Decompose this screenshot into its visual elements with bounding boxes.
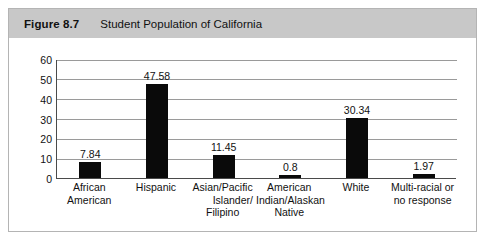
x-axis-category-line: no response	[389, 194, 456, 207]
bar[interactable]	[413, 174, 435, 178]
bar-group[interactable]: 11.45	[190, 59, 257, 178]
figure-header: Figure 8.7 Student Population of Califor…	[9, 9, 476, 38]
x-axis-category-line: American	[56, 194, 123, 207]
x-axis-category-line: Multi-racial or	[389, 181, 456, 194]
x-axis-category-label: Asian/PacificIslander/Filipino	[189, 181, 256, 219]
y-axis-tick-label: 20	[40, 133, 52, 145]
y-axis-tick-label: 40	[40, 94, 52, 106]
bar-value-label: 1.97	[413, 160, 433, 172]
x-axis-category-label: AmericanIndian/AlaskanNative	[256, 181, 323, 219]
x-axis-category-label: Multi-racial orno response	[389, 181, 456, 206]
chart-plot-area: 01020304050607.8447.5811.450.830.341.97	[56, 60, 456, 179]
x-axis-category-line: Asian/Pacific	[189, 181, 256, 194]
bar-group[interactable]: 0.8	[257, 59, 324, 178]
x-axis-category-line: African	[56, 181, 123, 194]
x-axis-category-label: Hispanic	[123, 181, 190, 194]
y-axis-tick-label: 50	[40, 74, 52, 86]
bar-value-label: 47.58	[144, 70, 170, 82]
x-axis-category-line: White	[323, 181, 390, 194]
bar-value-label: 30.34	[344, 104, 370, 116]
x-axis-category-line: American	[256, 181, 323, 194]
figure-caption: Student Population of California	[100, 18, 262, 30]
bar-value-label: 0.8	[283, 161, 298, 173]
x-axis-category-line: Indian/Alaskan	[256, 194, 323, 207]
x-axis-category-line: Native	[256, 206, 323, 219]
y-axis-tick-label: 60	[40, 54, 52, 66]
bar[interactable]	[346, 118, 368, 178]
y-axis-tick-label: 30	[40, 114, 52, 126]
bar[interactable]	[146, 84, 168, 178]
x-axis-category-label: AfricanAmerican	[56, 181, 123, 206]
x-axis-category-line: Hispanic	[123, 181, 190, 194]
bar-group[interactable]: 7.84	[57, 59, 124, 178]
bar-group[interactable]: 30.34	[324, 59, 391, 178]
bar[interactable]	[213, 155, 235, 178]
bar-group[interactable]: 1.97	[390, 59, 457, 178]
bar-value-label: 11.45	[211, 141, 237, 153]
bar-group[interactable]: 47.58	[124, 59, 191, 178]
y-axis-tick-label: 0	[46, 173, 52, 185]
x-axis-category-line: Islander/	[189, 194, 256, 207]
y-axis-tick-label: 10	[40, 153, 52, 165]
bar[interactable]	[279, 175, 301, 178]
chart-plot-region: 01020304050607.8447.5811.450.830.341.97 …	[9, 38, 476, 232]
bar-value-label: 7.84	[80, 148, 100, 160]
bar[interactable]	[79, 162, 101, 178]
x-axis-category-label: White	[323, 181, 390, 194]
figure-number: Figure 8.7	[24, 18, 79, 30]
figure-frame: Figure 8.7 Student Population of Califor…	[8, 8, 477, 232]
x-axis-category-line: Filipino	[189, 206, 256, 219]
